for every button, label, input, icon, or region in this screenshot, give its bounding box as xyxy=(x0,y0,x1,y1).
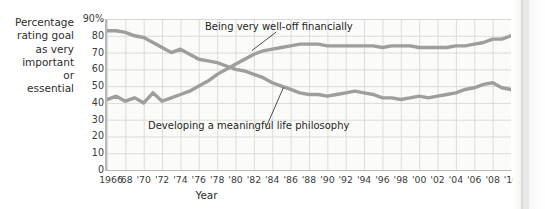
x-tick-label: '88 xyxy=(301,175,317,185)
x-tick-label: '70 xyxy=(136,175,152,185)
page-edge-rule xyxy=(521,0,523,209)
x-tick-label: '02 xyxy=(430,175,446,185)
x-tick-label: '96 xyxy=(374,175,390,185)
chart-figure: Percentage rating goal as very important… xyxy=(0,0,545,209)
x-tick-label: '92 xyxy=(338,175,354,185)
x-tick-label: '74 xyxy=(172,175,188,185)
x-tick-label: '04 xyxy=(448,175,464,185)
annotation-life-philosophy: Developing a meaningful life philosophy xyxy=(148,120,349,131)
y-axis-title-line-5: or xyxy=(2,69,74,82)
y-tick-label: 70 xyxy=(74,48,104,58)
page-edge-highlight xyxy=(529,0,545,209)
x-tick-label: '78 xyxy=(209,175,225,185)
x-axis-title: Year xyxy=(0,189,545,201)
y-tick-label: 60 xyxy=(74,64,104,74)
y-axis-title-line-2: rating goal xyxy=(2,29,74,42)
x-tick-label: '00 xyxy=(411,175,427,185)
y-axis-line xyxy=(105,19,107,170)
y-tick-label: 10 xyxy=(74,148,104,158)
x-tick-label: '84 xyxy=(264,175,280,185)
y-tick-label: 80 xyxy=(74,31,104,41)
y-tick-label: 40 xyxy=(74,98,104,108)
x-axis-line xyxy=(105,170,511,171)
x-tick-label: '86 xyxy=(283,175,299,185)
x-tick-label: '06 xyxy=(466,175,482,185)
x-tick-label: '76 xyxy=(191,175,207,185)
series-line-life-philosophy xyxy=(107,31,511,100)
y-tick-label: 20 xyxy=(74,131,104,141)
x-tick-label: '94 xyxy=(356,175,372,185)
plot-area xyxy=(107,19,511,170)
x-axis-title-text: Year xyxy=(195,189,217,201)
y-axis-title-line-3: as very xyxy=(2,43,74,56)
x-tick-label: '72 xyxy=(154,175,170,185)
y-tick-label: 90% xyxy=(68,14,104,24)
y-axis-title-line-1: Percentage xyxy=(2,16,74,29)
x-tick-label: '98 xyxy=(393,175,409,185)
y-tick-label: 30 xyxy=(74,115,104,125)
x-tick-label: '90 xyxy=(319,175,335,185)
x-tick-label: '68 xyxy=(117,175,133,185)
y-axis-title-line-4: important xyxy=(2,56,74,69)
x-tick-label: '80 xyxy=(228,175,244,185)
y-axis-title-line-6: essential xyxy=(2,82,74,95)
x-tick-label: '82 xyxy=(246,175,262,185)
y-tick-label: 50 xyxy=(74,81,104,91)
x-tick-label: '08 xyxy=(485,175,501,185)
y-axis-title: Percentage rating goal as very important… xyxy=(2,16,74,96)
annotation-well-off-financially: Being very well-off financially xyxy=(205,21,353,32)
data-series-group xyxy=(107,19,511,170)
